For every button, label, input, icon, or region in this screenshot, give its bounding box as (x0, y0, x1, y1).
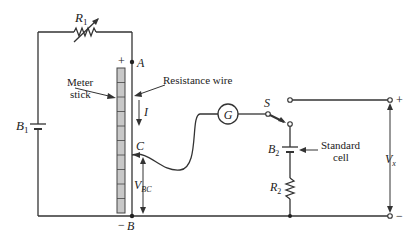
switch-label: S (264, 96, 270, 110)
vx-plus-terminal (388, 98, 393, 103)
switch-pivot-terminal (266, 112, 271, 117)
switch-contact-terminal (288, 122, 293, 127)
node-b-dot (130, 214, 134, 218)
meter-stick (117, 68, 125, 213)
meter-stick-arrowhead (107, 93, 116, 99)
resistance-wire-label: Resistance wire (163, 74, 232, 86)
circuit-diagram: G R1 B1 + A Meter stick Resistance wire … (0, 0, 420, 240)
vx-arrowhead-bottom (387, 206, 393, 213)
minus-bottom-label: − (118, 218, 125, 232)
vx-minus-label: − (396, 209, 403, 223)
plus-top-label: + (118, 54, 125, 68)
resistance-wire-arrowhead (134, 91, 142, 97)
vbc-arrowhead-top (140, 157, 146, 164)
vx-plus-label: + (396, 93, 403, 107)
vx-minus-terminal (388, 214, 393, 219)
vx-label: Vx (385, 152, 396, 168)
r1-label: R1 (74, 10, 87, 27)
top-left-terminal (288, 98, 293, 103)
b1-label: B1 (16, 118, 28, 135)
node-a-label: A (136, 56, 145, 70)
b2-label: B2 (268, 142, 279, 158)
current-label: I (143, 105, 149, 119)
r2-resistor (286, 178, 294, 199)
galvanometer-label: G (224, 108, 233, 122)
r2-label: R2 (269, 180, 281, 196)
standard-cell-arrowhead (299, 147, 306, 153)
current-arrowhead (136, 119, 142, 126)
meter-stick-label-2: stick (70, 88, 91, 100)
standard-cell-label-2: cell (333, 151, 349, 163)
node-a-dot (130, 60, 134, 64)
vx-arrowhead-top (387, 103, 393, 110)
node-c-label: C (136, 139, 145, 153)
junction-dot (288, 214, 292, 218)
node-b-label: B (127, 219, 135, 233)
vbc-arrowhead-bottom (140, 207, 146, 214)
standard-cell-label-1: Standard (321, 139, 361, 151)
meter-stick-label-1: Meter (67, 76, 94, 88)
